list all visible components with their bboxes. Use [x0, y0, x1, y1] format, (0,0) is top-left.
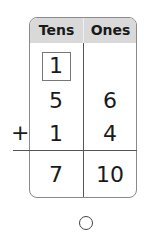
addend2-tens: 1: [30, 121, 82, 147]
header-ones: Ones: [84, 18, 137, 43]
header-tens: Tens: [30, 18, 83, 43]
addend1-ones: 6: [84, 88, 136, 114]
header-divider: [83, 18, 84, 43]
sum-ones: 10: [84, 162, 136, 188]
carry-tens: 1: [30, 53, 82, 79]
sum-tens: 7: [30, 162, 82, 188]
sum-line: [13, 150, 137, 151]
plus-sign: +: [11, 120, 29, 146]
addend2-ones: 4: [84, 121, 136, 147]
place-value-table: Tens Ones 1 5 6 1 4 7 10: [29, 17, 137, 198]
radio-circle-icon[interactable]: [79, 216, 93, 230]
addend1-tens: 5: [30, 88, 82, 114]
